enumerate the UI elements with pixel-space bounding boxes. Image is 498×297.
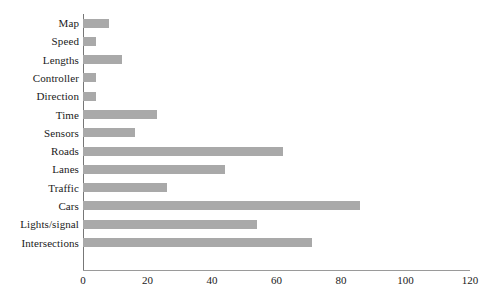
bar xyxy=(83,220,257,229)
x-axis-tick-label: 80 xyxy=(336,274,347,286)
y-axis-tick-label: Controller xyxy=(0,69,79,87)
bar xyxy=(83,92,96,101)
bar-row xyxy=(83,179,470,197)
bar-row xyxy=(83,142,470,160)
bar xyxy=(83,201,360,210)
y-axis-tick-label: Lanes xyxy=(0,160,79,178)
x-axis-tick-label: 100 xyxy=(397,274,414,286)
bar-row xyxy=(83,14,470,32)
y-axis-tick-label: Time xyxy=(0,105,79,123)
y-axis-tick-label-text: Intersections xyxy=(21,237,79,249)
y-axis-tick-label-text: Roads xyxy=(51,145,79,157)
y-axis-tick-label: Lengths xyxy=(0,51,79,69)
y-axis-tick-label-text: Speed xyxy=(52,35,79,47)
y-axis-tick-label: Intersections xyxy=(0,233,79,251)
bar xyxy=(83,73,96,82)
bar-row xyxy=(83,124,470,142)
bar-row xyxy=(83,87,470,105)
y-axis-tick-label: Speed xyxy=(0,32,79,50)
y-axis-tick-label-text: Lengths xyxy=(43,54,79,66)
bar-row xyxy=(83,69,470,87)
bar xyxy=(83,19,109,28)
x-axis-tick-label: 40 xyxy=(207,274,218,286)
bar xyxy=(83,37,96,46)
y-axis-tick-label: Roads xyxy=(0,142,79,160)
y-axis-tick-label-text: Lanes xyxy=(52,163,79,175)
x-axis-tick-label: 60 xyxy=(271,274,282,286)
bar-row xyxy=(83,197,470,215)
bar xyxy=(83,165,225,174)
bars-layer xyxy=(83,14,470,270)
bar xyxy=(83,55,122,64)
y-axis-tick-label: Lights/signal xyxy=(0,215,79,233)
x-axis-line xyxy=(83,270,470,271)
y-axis-tick-label: Direction xyxy=(0,87,79,105)
y-axis-tick-label: Map xyxy=(0,14,79,32)
bar-row xyxy=(83,32,470,50)
y-axis-tick-label-text: Cars xyxy=(58,200,79,212)
y-axis-tick-label-text: Traffic xyxy=(48,182,79,194)
bar-row xyxy=(83,160,470,178)
y-axis-tick-label-text: Lights/signal xyxy=(20,218,79,230)
x-axis-tick-label: 120 xyxy=(462,274,479,286)
y-axis-tick-label: Traffic xyxy=(0,179,79,197)
plot-area xyxy=(83,14,470,270)
bar xyxy=(83,183,167,192)
bar-row xyxy=(83,233,470,251)
bar-chart: MapSpeedLengthsControllerDirectionTimeSe… xyxy=(0,0,498,297)
y-axis-tick-label: Cars xyxy=(0,197,79,215)
y-axis-tick-labels: MapSpeedLengthsControllerDirectionTimeSe… xyxy=(0,14,79,270)
y-axis-tick-label-text: Time xyxy=(56,109,79,121)
x-axis-tick-labels: 020406080100120 xyxy=(83,274,470,292)
x-axis-tick-label: 20 xyxy=(142,274,153,286)
bar xyxy=(83,128,135,137)
bar xyxy=(83,110,157,119)
bar-row xyxy=(83,51,470,69)
bar xyxy=(83,238,312,247)
y-axis-tick-label-text: Map xyxy=(59,17,79,29)
y-axis-tick-label: Sensors xyxy=(0,124,79,142)
bar xyxy=(83,147,283,156)
bar-row xyxy=(83,105,470,123)
x-axis-tick-label: 0 xyxy=(80,274,86,286)
y-axis-tick-label-text: Controller xyxy=(33,72,79,84)
bar-row xyxy=(83,215,470,233)
y-axis-tick-label-text: Direction xyxy=(37,90,79,102)
y-axis-tick-label-text: Sensors xyxy=(44,127,79,139)
